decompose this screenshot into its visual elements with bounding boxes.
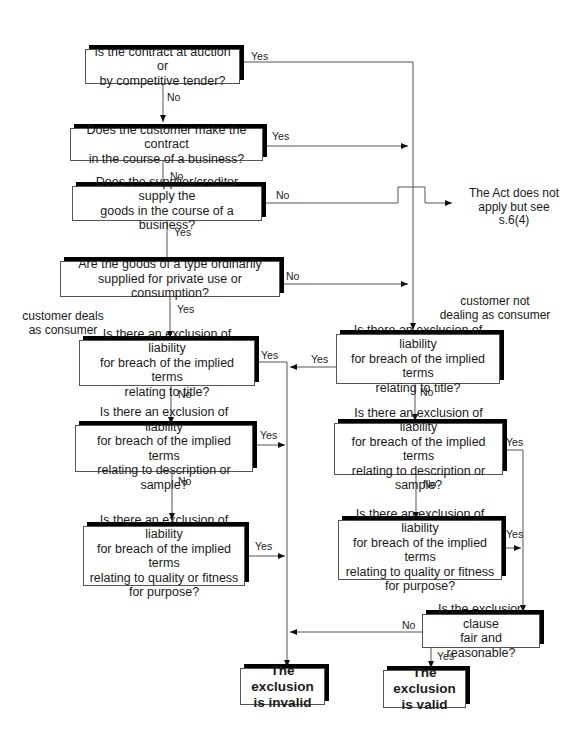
edge-label-left-title-no: No xyxy=(178,388,191,400)
left-question-description: Is there an exclusion of liability for b… xyxy=(75,425,253,472)
note-not-consumer: customer not dealing as consumer xyxy=(435,295,555,322)
edge-label-left-desc-no: No xyxy=(178,475,191,487)
note-act-not-apply: The Act does not apply but see s.6(4) xyxy=(462,187,566,228)
question-customer-business: Does the customer make the contract in t… xyxy=(70,128,263,161)
question-private-use: Are the goods of a type ordinarily suppl… xyxy=(60,261,280,297)
edge-label-right-desc-yes: Yes xyxy=(506,436,523,448)
question-supplier-business: Does the supplier/creditor supply the go… xyxy=(72,186,262,221)
result-valid: The exclusion is valid xyxy=(383,670,466,708)
edge-label-right-title-yes: Yes xyxy=(311,353,328,365)
edge-label-auction-yes: Yes xyxy=(251,50,268,62)
edge-label-fair-no: No xyxy=(402,619,415,631)
edge-label-fair-yes: Yes xyxy=(437,650,454,662)
edge-label-customer-yes: Yes xyxy=(272,130,289,142)
note-deals-as-consumer: customer deals as consumer xyxy=(22,310,104,337)
result-invalid: The exclusion is invalid xyxy=(240,668,325,705)
question-fair-reasonable: Is the exclusion clause fair and reasona… xyxy=(422,614,540,648)
right-question-description: Is there an exclusion of liability for b… xyxy=(334,423,503,475)
edge-label-left-title-yes: Yes xyxy=(261,349,278,361)
right-question-quality: Is there an exclusion of liability for b… xyxy=(338,520,502,580)
edge-label-supplier-no: No xyxy=(276,189,289,201)
edge-label-left-quality-yes: Yes xyxy=(255,540,272,552)
edge-label-supplier-yes: Yes xyxy=(174,226,191,238)
edge-label-customer-no: No xyxy=(170,170,183,182)
edge-label-private-yes: Yes xyxy=(177,303,194,315)
edge-label-auction-no: No xyxy=(167,91,180,103)
left-question-quality: Is there an exclusion of liability for b… xyxy=(83,526,245,586)
edge-label-right-desc-no: No xyxy=(423,478,436,490)
right-question-title: Is there an exclusion of liability for b… xyxy=(336,334,500,384)
edge-label-right-title-no: No xyxy=(420,386,433,398)
edge-label-private-no: No xyxy=(286,270,299,282)
question-auction: Is the contract at auction or by competi… xyxy=(85,49,240,84)
edge-label-left-desc-yes: Yes xyxy=(260,429,277,441)
left-question-title: Is there an exclusion of liability for b… xyxy=(79,340,255,386)
edge-label-right-quality-yes: Yes xyxy=(506,528,523,540)
